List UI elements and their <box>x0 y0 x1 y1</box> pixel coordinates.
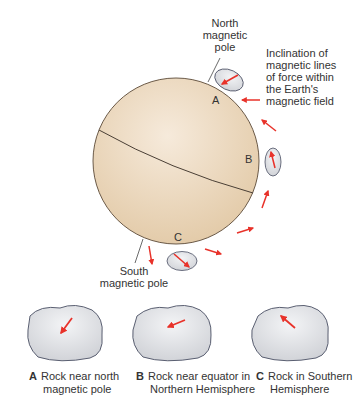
globe-marker-a: A <box>212 94 219 106</box>
inclination-label: Inclination of magnetic lines of force w… <box>266 47 336 107</box>
caption-line: Rock near north <box>41 370 119 382</box>
caption-letter: C <box>256 370 264 382</box>
caption-a: ARock near north magnetic pole <box>29 370 119 396</box>
label-line: magnetic lines <box>266 59 336 71</box>
caption-b: BRock near equator in Northern Hemispher… <box>136 370 255 396</box>
caption-line: Rock in Southern <box>268 370 352 382</box>
label-line: North <box>197 17 253 29</box>
caption-letter: A <box>29 370 37 382</box>
label-line: Inclination of <box>266 47 336 59</box>
rock-b-small <box>265 148 281 176</box>
globe-marker-c: C <box>174 231 182 243</box>
earth-globe <box>93 78 259 244</box>
caption-letter: B <box>136 370 144 382</box>
north-magnetic-pole-label: North magnetic pole <box>197 17 253 53</box>
label-line: of force within <box>266 71 336 83</box>
label-line: the Earth's <box>266 83 336 95</box>
south-pole-leader <box>135 239 143 263</box>
caption-line: Northern Hemisphere <box>136 383 255 395</box>
label-line: magnetic pole <box>94 277 174 289</box>
label-line: magnetic <box>197 29 253 41</box>
globe-marker-b: B <box>245 153 252 165</box>
label-line: pole <box>197 41 253 53</box>
label-line: magnetic field <box>266 95 336 107</box>
rock-b-large <box>133 305 211 360</box>
south-magnetic-pole-label: South magnetic pole <box>94 265 174 289</box>
caption-line: magnetic pole <box>29 383 112 395</box>
caption-c: CRock in Southern Hemisphere <box>256 370 352 396</box>
label-line: South <box>94 265 174 277</box>
caption-line: Hemisphere <box>256 383 329 395</box>
rock-c-large <box>252 305 329 360</box>
caption-line: Rock near equator in <box>148 370 250 382</box>
rock-a-large <box>28 305 103 360</box>
